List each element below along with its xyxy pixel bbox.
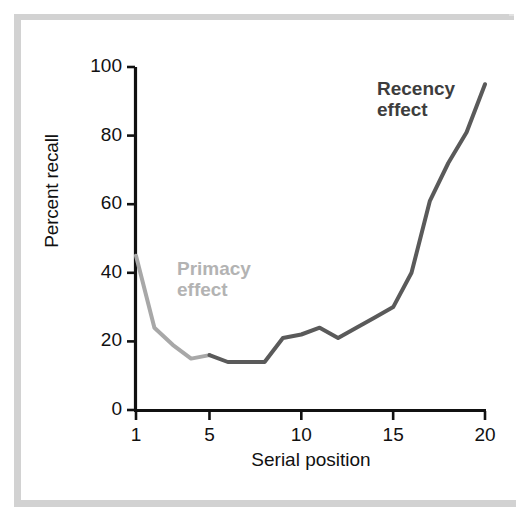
x-tick-label: 5 xyxy=(184,424,234,446)
x-tick-label: 10 xyxy=(276,424,326,446)
figure-page: Percent recall Serial position 15101520 … xyxy=(0,0,522,522)
primacy-effect-annotation: Primacy effect xyxy=(177,259,251,300)
x-axis-ticks xyxy=(136,411,485,420)
y-axis-ticks xyxy=(127,67,135,410)
y-tick-label: 60 xyxy=(60,192,122,214)
y-tick-label: 40 xyxy=(60,261,122,283)
y-tick-label: 20 xyxy=(60,329,122,351)
y-tick-label: 80 xyxy=(60,124,122,146)
x-tick-label: 20 xyxy=(460,424,510,446)
y-tick-label: 0 xyxy=(60,398,122,420)
x-tick-label: 1 xyxy=(111,424,161,446)
recency-curve-segment xyxy=(210,84,486,362)
x-axis-label: Serial position xyxy=(135,449,487,471)
y-tick-label: 100 xyxy=(60,55,122,77)
recency-effect-annotation: Recency effect xyxy=(377,79,455,120)
x-tick-label: 15 xyxy=(368,424,418,446)
